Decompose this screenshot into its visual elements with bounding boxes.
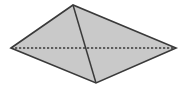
quadrilateral-diagram	[0, 0, 185, 90]
figure-container	[0, 0, 185, 90]
